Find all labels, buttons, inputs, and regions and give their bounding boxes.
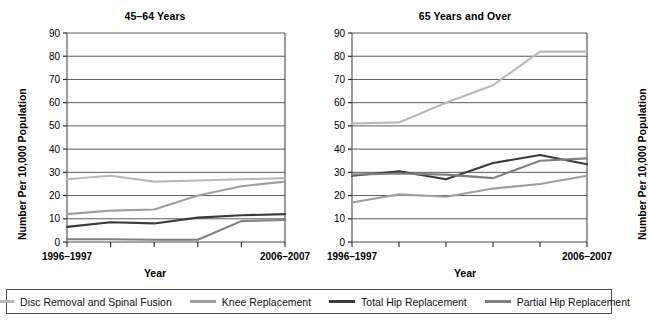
y-tick-label-90: 90 — [334, 28, 346, 39]
y-tick-label-80: 80 — [49, 51, 61, 62]
y-tick-label-0: 0 — [54, 237, 60, 248]
legend-item[interactable]: Knee Replacement — [190, 296, 311, 308]
legend-item[interactable]: Total Hip Replacement — [329, 296, 467, 308]
legend-swatch-icon — [485, 300, 511, 303]
chart-legend: Disc Removal and Spinal FusionKnee Repla… — [6, 289, 612, 314]
x-tick-label-5: 2006–2007 — [260, 251, 310, 262]
y-tick-label-50: 50 — [49, 120, 61, 131]
y-tick-label-70: 70 — [49, 74, 61, 85]
y-tick-label-20: 20 — [334, 190, 346, 201]
plot-area-right: 01020304050607080901996–19972006–2007 — [310, 0, 620, 286]
x-tick-label-0: 1996–1997 — [327, 251, 377, 262]
series-line-0 — [352, 52, 587, 124]
y-tick-label-40: 40 — [49, 144, 61, 155]
series-line-3 — [352, 158, 587, 178]
plot-area-left: 01020304050607080901996–19972006–2007 — [0, 0, 310, 286]
y-tick-label-10: 10 — [49, 213, 61, 224]
y-axis-label-right: Number Per 10,000 Population — [636, 88, 648, 240]
legend-swatch-icon — [329, 300, 355, 303]
legend-item-label: Total Hip Replacement — [361, 296, 467, 308]
series-line-0 — [67, 176, 285, 182]
y-tick-label-30: 30 — [334, 167, 346, 178]
y-tick-label-80: 80 — [334, 51, 346, 62]
y-tick-label-50: 50 — [334, 120, 346, 131]
x-tick-label-0: 1996–1997 — [42, 251, 92, 262]
y-tick-label-30: 30 — [49, 167, 61, 178]
legend-swatch-icon — [0, 300, 14, 303]
chart-panel-65-over: 65 Years and Over Number Per 10,000 Popu… — [310, 0, 620, 286]
chart-panel-45-64: 45–64 Years Number Per 10,000 Population… — [0, 0, 310, 286]
y-tick-label-70: 70 — [334, 74, 346, 85]
series-line-1 — [67, 182, 285, 215]
series-line-1 — [352, 176, 587, 203]
legend-item-label: Disc Removal and Spinal Fusion — [20, 296, 172, 308]
x-axis-label-right: Year — [310, 267, 620, 279]
legend-item-label: Partial Hip Replacement — [517, 296, 630, 308]
y-tick-label-60: 60 — [334, 97, 346, 108]
y-tick-label-90: 90 — [49, 28, 61, 39]
legend-item[interactable]: Partial Hip Replacement — [485, 296, 630, 308]
y-tick-label-10: 10 — [334, 213, 346, 224]
y-tick-label-0: 0 — [339, 237, 345, 248]
x-tick-label-5: 2006–2007 — [562, 251, 612, 262]
legend-swatch-icon — [190, 300, 216, 303]
y-tick-label-60: 60 — [49, 97, 61, 108]
y-tick-label-40: 40 — [334, 144, 346, 155]
x-axis-label-left: Year — [0, 267, 310, 279]
legend-item[interactable]: Disc Removal and Spinal Fusion — [0, 296, 172, 308]
y-tick-label-20: 20 — [49, 190, 61, 201]
legend-item-label: Knee Replacement — [222, 296, 311, 308]
